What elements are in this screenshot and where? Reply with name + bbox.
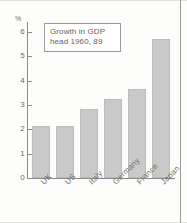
y-axis-tick-label: 1 <box>5 150 25 158</box>
chart-figure: % 0123456 Growth in GDP head 1960, 89 UK… <box>0 0 187 223</box>
chart-title-box: Growth in GDP head 1960, 89 <box>44 23 121 52</box>
bar-uk <box>32 126 50 178</box>
chart-title-line-2: head 1960, 89 <box>50 37 116 47</box>
y-axis-tick-label: 3 <box>5 101 25 109</box>
bar-italy <box>80 109 98 178</box>
y-axis-tick-label: 5 <box>5 52 25 60</box>
plot-area: % 0123456 Growth in GDP head 1960, 89 UK… <box>0 0 187 223</box>
bar-us <box>56 126 74 178</box>
chart-title-line-1: Growth in GDP <box>50 27 116 37</box>
x-axis-category-labels: UKUSItalyGermanyFranceJapan <box>27 180 182 223</box>
y-axis-unit-label: % <box>15 15 21 23</box>
y-axis-tick-label: 0 <box>5 174 25 182</box>
bar-germany <box>104 99 122 178</box>
y-axis-tick-label: 6 <box>5 28 25 36</box>
bar-japan <box>152 39 170 178</box>
y-axis-tick-label: 2 <box>5 125 25 133</box>
y-axis-tick-label: 4 <box>5 77 25 85</box>
